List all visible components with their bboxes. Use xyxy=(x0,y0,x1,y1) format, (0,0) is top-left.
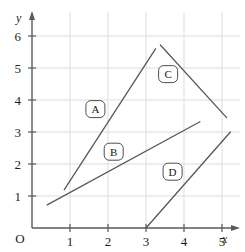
x-tick-label-1: 1 xyxy=(67,234,74,249)
y-tick-label-1: 1 xyxy=(15,189,22,204)
x-tick-label-3: 3 xyxy=(143,234,150,249)
y-tick-label-5: 5 xyxy=(15,61,22,76)
axis-ticks xyxy=(28,36,222,232)
segment-label-b: B xyxy=(104,143,123,160)
segment-label-a-text: A xyxy=(91,103,99,115)
x-tick-labels: 1 2 3 4 5 xyxy=(67,234,226,249)
coordinate-plot: 1 2 3 4 5 6 1 2 3 4 5 O x y A xyxy=(0,0,245,252)
segment-label-d-text: D xyxy=(169,166,177,178)
x-axis-label: x xyxy=(221,232,228,246)
segment-a xyxy=(64,49,155,190)
segment-d xyxy=(146,132,230,228)
x-tick-label-4: 4 xyxy=(181,234,188,249)
y-tick-label-4: 4 xyxy=(15,93,22,108)
segment-label-c: C xyxy=(159,66,178,83)
segment-label-a: A xyxy=(86,101,105,118)
data-segments xyxy=(47,45,230,228)
x-tick-label-2: 2 xyxy=(105,234,112,249)
y-tick-label-2: 2 xyxy=(15,157,22,172)
y-tick-label-6: 6 xyxy=(15,29,22,44)
origin-label: O xyxy=(15,231,24,246)
x-axis-arrow xyxy=(231,225,240,231)
segment-label-b-text: B xyxy=(110,146,117,158)
y-axis-arrow xyxy=(29,11,35,20)
y-tick-label-3: 3 xyxy=(15,125,22,140)
y-axis-label: y xyxy=(15,11,22,25)
y-tick-labels: 1 2 3 4 5 6 xyxy=(15,29,22,204)
chart-figure: 1 2 3 4 5 6 1 2 3 4 5 O x y A xyxy=(0,0,245,252)
segment-label-c-text: C xyxy=(164,68,171,80)
segment-label-d: D xyxy=(163,163,182,180)
